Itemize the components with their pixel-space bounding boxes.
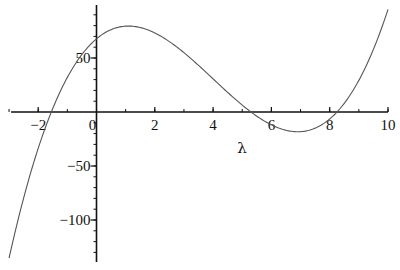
x-tick-label: 10	[381, 117, 396, 133]
x-axis-label: λ	[237, 139, 247, 157]
cubic-plot: −20246810 50−50−100 λ	[0, 0, 400, 270]
x-tick-label: 2	[151, 117, 159, 133]
y-tick-label: −50	[67, 158, 90, 174]
x-tick-label: 0	[89, 117, 97, 133]
y-tick-label: −100	[60, 212, 91, 228]
x-tick-label: 4	[209, 117, 217, 133]
